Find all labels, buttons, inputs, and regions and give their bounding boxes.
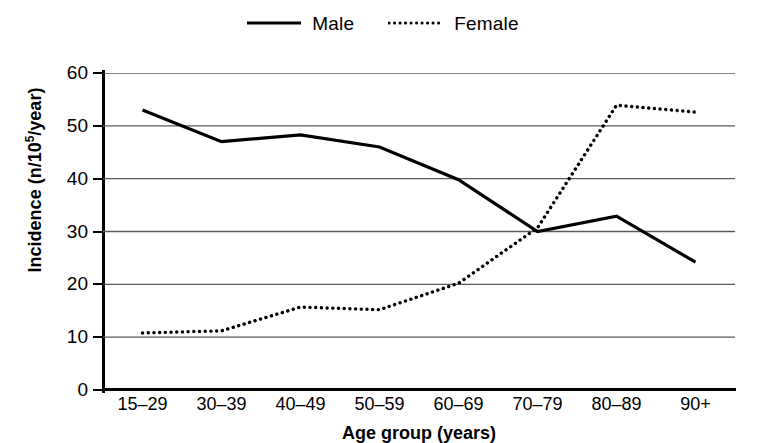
y-tick-label: 0 [34,380,88,399]
legend-item-male: Male [246,14,354,33]
y-axis-title: Incidence (n/105/year) [24,30,44,330]
x-tick-label: 80–89 [591,395,641,413]
plot-area [103,73,735,390]
x-tick-label: 70–79 [512,395,562,413]
legend-label-male: Male [312,14,354,33]
y-axis-title-main: Incidence (n/10 [25,142,45,272]
chart-figure: Male Female Incidence (n/105/year) 01020… [0,0,765,443]
dotted-line-swatch [388,17,444,29]
y-axis-title-exponent: 5 [23,136,37,143]
plot-canvas [103,73,735,390]
x-tick-label: 50–59 [354,395,404,413]
x-axis-ticks: 15–2930–3940–4950–5960–6970–7980–8990+ [103,395,735,419]
legend-label-female: Female [454,14,519,33]
x-tick-label: 15–29 [117,395,167,413]
x-tick-label: 40–49 [275,395,325,413]
x-tick-label: 30–39 [196,395,246,413]
legend-item-female: Female [388,14,519,33]
y-axis-title-tail: /year) [25,88,45,136]
chart-legend: Male Female [0,6,765,40]
x-tick-label: 60–69 [433,395,483,413]
series-line-female [143,105,696,333]
x-axis-title: Age group (years) [103,424,735,442]
y-tick-label: 10 [34,327,88,346]
series-line-male [143,110,696,262]
solid-line-swatch [246,17,302,29]
x-tick-label: 90+ [680,395,711,413]
